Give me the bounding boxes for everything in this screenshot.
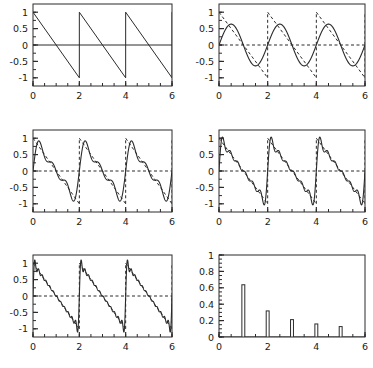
x-tick-label: 4 (123, 341, 129, 352)
y-tick-label: 0 (208, 40, 214, 51)
spectrum-bar (291, 320, 294, 337)
x-tick-label: 0 (30, 216, 36, 227)
plot-panel-6: 024600.20.40.60.81 (186, 245, 373, 368)
x-tick-label: 4 (313, 341, 319, 352)
y-tick-label: 1 (208, 7, 214, 18)
x-tick-label: 2 (265, 90, 271, 101)
x-tick-label: 6 (362, 90, 368, 101)
y-tick-label: 1 (22, 133, 28, 144)
x-tick-label: 2 (76, 90, 82, 101)
x-tick-label: 4 (313, 90, 319, 101)
y-tick-label: 1 (22, 258, 28, 269)
y-tick-label: -0.5 (9, 56, 28, 67)
x-tick-label: 2 (76, 216, 82, 227)
y-tick-label: -1 (205, 198, 214, 209)
x-tick-label: 4 (123, 216, 129, 227)
plot-panel-2: 0246-1-0.500.51 (186, 0, 373, 122)
y-tick-label: -0.5 (9, 182, 28, 193)
spectrum-bar (266, 311, 269, 337)
y-tick-label: 0 (22, 291, 28, 302)
spectrum-bar (242, 285, 245, 337)
x-tick-label: 4 (313, 216, 319, 227)
x-tick-label: 6 (169, 341, 175, 352)
y-tick-label: 0 (22, 166, 28, 177)
y-tick-label: 1 (208, 250, 214, 261)
spectrum-bar (339, 327, 342, 337)
fourier-partial-sum-curve (219, 24, 365, 66)
y-tick-label: -0.5 (195, 182, 214, 193)
x-tick-label: 0 (30, 90, 36, 101)
x-tick-label: 4 (123, 90, 129, 101)
y-tick-label: 0.5 (13, 274, 28, 285)
plot-panel-5: 0246-1-0.500.51 (0, 245, 186, 368)
x-tick-label: 0 (30, 341, 36, 352)
y-tick-label: -1 (19, 323, 28, 334)
x-tick-label: 0 (216, 90, 222, 101)
y-tick-label: 0.5 (199, 23, 214, 34)
y-tick-label: 0.6 (199, 282, 214, 293)
spectrum-bar (315, 324, 318, 337)
y-tick-label: 0.5 (13, 23, 28, 34)
x-tick-label: 2 (265, 216, 271, 227)
fourier-series-figure: 0246-1-0.500.510246-1-0.500.510246-1-0.5… (0, 0, 373, 368)
x-tick-label: 6 (362, 216, 368, 227)
x-tick-label: 2 (265, 341, 271, 352)
plot-panel-4: 0246-1-0.500.51 (186, 122, 373, 245)
y-tick-label: -1 (205, 72, 214, 83)
plot-panel-3: 0246-1-0.500.51 (0, 122, 186, 245)
x-tick-label: 6 (362, 341, 368, 352)
y-tick-label: 0 (22, 40, 28, 51)
x-tick-label: 0 (216, 341, 222, 352)
y-tick-label: 1 (208, 133, 214, 144)
y-tick-label: -0.5 (9, 307, 28, 318)
plot-panel-1: 0246-1-0.500.51 (0, 0, 186, 122)
y-tick-label: 0.4 (199, 299, 214, 310)
y-tick-label: -1 (19, 72, 28, 83)
x-tick-label: 6 (169, 216, 175, 227)
y-tick-label: 0.5 (199, 149, 214, 160)
y-tick-label: 0 (208, 332, 214, 343)
fourier-partial-sum-curve (219, 137, 365, 205)
y-tick-label: -1 (19, 198, 28, 209)
y-tick-label: 1 (22, 7, 28, 18)
y-tick-label: 0 (208, 166, 214, 177)
y-tick-label: -0.5 (195, 56, 214, 67)
x-tick-label: 2 (76, 341, 82, 352)
x-tick-label: 6 (169, 90, 175, 101)
y-tick-label: 0.8 (199, 266, 214, 277)
y-tick-label: 0.5 (13, 149, 28, 160)
x-tick-label: 0 (216, 216, 222, 227)
y-tick-label: 0.2 (199, 315, 214, 326)
